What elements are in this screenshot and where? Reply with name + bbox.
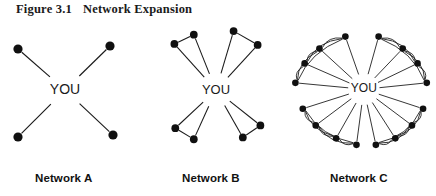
- hub-edge: [357, 105, 362, 141]
- hub-edge: [347, 40, 359, 74]
- contact-node: [170, 40, 178, 48]
- network-a-diagram: YOU: [0, 18, 142, 168]
- network-c-diagram: YOU: [288, 18, 436, 168]
- hub-edge: [80, 104, 110, 132]
- contact-node: [190, 135, 198, 143]
- network-a-svg: YOU: [0, 18, 142, 168]
- contact-node: [316, 45, 323, 52]
- hub-edge: [79, 49, 106, 76]
- peer-edge: [298, 39, 343, 80]
- network-b-svg: YOU: [142, 18, 290, 168]
- contact-node: [423, 79, 430, 86]
- network-c-label: Network C: [330, 172, 388, 184]
- network-c-svg: YOU: [288, 18, 436, 168]
- contact-node: [342, 33, 349, 40]
- network-b-label: Network B: [182, 172, 240, 184]
- hub-edge: [308, 65, 349, 83]
- network-a-label: Network A: [35, 172, 92, 184]
- figure-number: Figure 3.1: [16, 2, 72, 16]
- contact-node: [301, 60, 308, 67]
- contact-node: [420, 105, 427, 112]
- contact-node: [108, 130, 117, 139]
- hub-edge: [178, 102, 203, 125]
- hub-edge: [372, 103, 393, 136]
- contact-node: [299, 105, 306, 112]
- contact-node: [353, 141, 360, 148]
- network-b-diagram: YOU: [142, 18, 290, 168]
- contact-node: [373, 141, 380, 148]
- contact-node: [230, 27, 238, 35]
- hub-edge: [367, 105, 375, 142]
- peer-edge: [178, 37, 190, 43]
- hub-edge: [338, 103, 356, 135]
- network-c-hub-label: YOU: [351, 81, 377, 95]
- peer-edge: [398, 111, 421, 135]
- contact-node: [375, 33, 382, 40]
- network-a-hub-label: YOU: [50, 81, 80, 97]
- hub-edge: [368, 40, 378, 74]
- hub-edge: [22, 52, 50, 77]
- contact-node: [292, 79, 299, 86]
- contact-node: [409, 122, 416, 129]
- peer-edge: [237, 33, 254, 43]
- contact-node: [254, 41, 262, 49]
- contact-node: [171, 124, 179, 132]
- hub-edge: [299, 83, 348, 88]
- hub-edge: [378, 65, 414, 82]
- peer-edge: [381, 39, 424, 80]
- contact-node: [333, 135, 340, 142]
- hub-edge: [195, 39, 209, 74]
- contact-node: [105, 41, 114, 50]
- contact-node: [190, 31, 198, 39]
- hub-edge: [221, 35, 232, 73]
- contact-node: [392, 135, 399, 142]
- hub-edge: [379, 83, 423, 87]
- contact-node: [414, 60, 421, 67]
- contact-node: [13, 44, 22, 53]
- hub-edge: [22, 104, 51, 133]
- contact-node: [312, 122, 319, 129]
- network-b-hub-label: YOU: [202, 82, 230, 97]
- figure-title-text: Network Expansion: [83, 2, 192, 16]
- figure-title: Figure 3.1Network Expansion: [16, 2, 192, 17]
- contact-node: [257, 121, 265, 129]
- peer-edge: [246, 128, 257, 135]
- hub-edge: [228, 48, 255, 77]
- hub-edge: [230, 101, 257, 123]
- contact-node: [399, 45, 406, 52]
- contact-node: [13, 132, 22, 141]
- hub-edge: [322, 51, 352, 79]
- peer-edge: [179, 130, 190, 137]
- contact-node: [239, 134, 247, 142]
- hub-edge: [196, 106, 209, 135]
- hub-edge: [225, 106, 241, 134]
